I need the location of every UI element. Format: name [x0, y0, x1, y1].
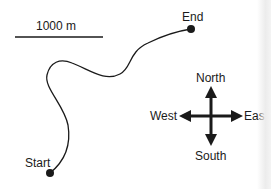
south-arrow-icon [205, 134, 217, 146]
compass-south-label: South [195, 150, 226, 162]
compass-north-label: North [196, 72, 225, 84]
compass-arrows [179, 86, 243, 146]
route-path [47, 29, 191, 173]
east-arrow-icon [231, 110, 243, 122]
west-arrow-icon [179, 110, 191, 122]
compass-west-label: West [150, 110, 177, 122]
scale-bar-label: 1000 m [36, 20, 76, 32]
start-label: Start [25, 157, 50, 169]
north-arrow-icon [205, 86, 217, 98]
end-label: End [182, 11, 203, 23]
right-edge-shadow [257, 0, 271, 189]
start-point [46, 169, 54, 177]
end-point [187, 25, 195, 33]
